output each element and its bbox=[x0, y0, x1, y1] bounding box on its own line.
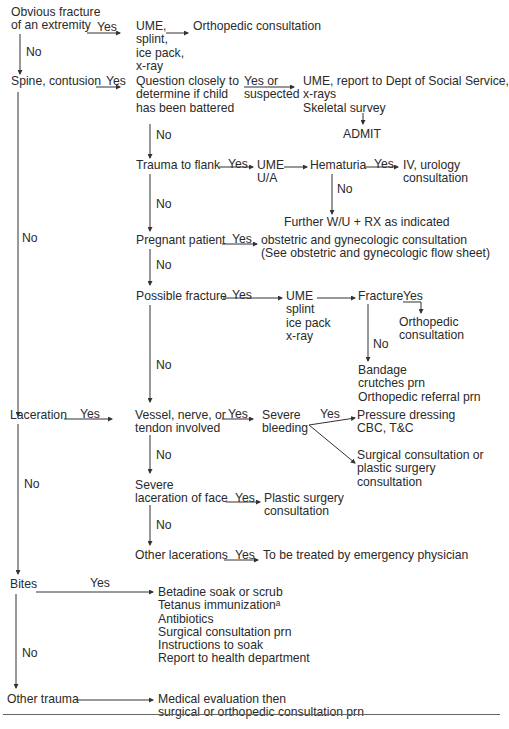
node-medical-evaluation: Medical evaluation then surgical or orth… bbox=[158, 693, 364, 720]
edge-label-yes: Yes bbox=[90, 577, 110, 590]
node-laceration: Laceration bbox=[10, 409, 67, 422]
edge-label-no: No bbox=[24, 478, 40, 491]
edge-label-yes: Yes bbox=[106, 75, 126, 88]
edge-label-yes: Yes bbox=[232, 233, 252, 246]
edge-label-yes: Yes bbox=[374, 158, 394, 171]
node-further-wu: Further W/U + RX as indicated bbox=[284, 216, 450, 229]
node-admit: ADMIT bbox=[343, 128, 381, 141]
node-ume-splint-1: UME, splint, ice pack, x-ray bbox=[136, 20, 184, 73]
node-orthopedic-consultation-2: Orthopedic consultation bbox=[399, 316, 464, 343]
edge-label-yes: Yes bbox=[228, 408, 248, 421]
node-severe-laceration-face: Severe laceration of face bbox=[135, 479, 228, 506]
edge-label-yes: Yes bbox=[97, 21, 117, 34]
node-hematuria: Hematuria bbox=[310, 159, 366, 172]
edge-label-no: No bbox=[22, 232, 38, 245]
edge-label-no: No bbox=[156, 449, 172, 462]
node-other-trauma: Other trauma bbox=[7, 693, 79, 706]
node-trauma-flank: Trauma to flank bbox=[136, 159, 220, 172]
node-bites-treatment: Betadine soak or scrub Tetanus immunizat… bbox=[158, 586, 310, 666]
node-fracture: Fracture bbox=[358, 290, 403, 303]
node-bites: Bites bbox=[10, 578, 37, 591]
edge-label-no: No bbox=[156, 259, 172, 272]
edge-label-no: No bbox=[156, 198, 172, 211]
node-iv-urology: IV, urology consultation bbox=[403, 159, 468, 186]
node-other-lacerations: Other lacerations bbox=[135, 549, 228, 562]
node-spine-contusion: Spine, contusion bbox=[11, 75, 101, 88]
node-pregnant-patient: Pregnant patient bbox=[136, 234, 225, 247]
node-question-battered: Question closely to determine if child h… bbox=[136, 75, 239, 115]
edge-label-yes: Yes bbox=[80, 408, 100, 421]
node-orthopedic-consultation-1: Orthopedic consultation bbox=[193, 20, 321, 33]
edge-label-no: No bbox=[373, 338, 389, 351]
node-plastic-surgery: Plastic surgery consultation bbox=[264, 492, 344, 519]
node-obvious-fracture: Obvious fracture of an extremity bbox=[11, 6, 100, 33]
edge-label-yes: Yes bbox=[235, 492, 255, 505]
node-ume-ua: UME U/A bbox=[257, 159, 284, 186]
node-emergency-physician: To be treated by emergency physician bbox=[263, 549, 468, 562]
node-severe-bleeding: Severe bleeding bbox=[262, 409, 308, 436]
edge-label-no: No bbox=[22, 647, 38, 660]
node-surgical-or-plastic: Surgical consultation or plastic surgery… bbox=[357, 449, 484, 489]
edge-label-no: No bbox=[156, 359, 172, 372]
edge-label-yes: Yes bbox=[403, 290, 423, 303]
node-obstetric-consultation: obstetric and gynecologic consultation (… bbox=[261, 234, 490, 261]
node-bandage: Bandage crutches prn Orthopedic referral… bbox=[358, 364, 481, 404]
edge-label-yes: Yes bbox=[228, 158, 248, 171]
edge-label-yes: Yes bbox=[320, 408, 340, 421]
edge-label-yes: Yes bbox=[235, 549, 255, 562]
bottom-rule bbox=[3, 714, 500, 715]
edge-label-yes-or-suspected: Yes or suspected bbox=[244, 75, 300, 102]
node-pressure-dressing: Pressure dressing CBC, T&C bbox=[357, 409, 455, 436]
node-ume-report-social-service: UME, report to Dept of Social Service, x… bbox=[303, 75, 509, 115]
edge-label-yes: Yes bbox=[232, 289, 252, 302]
node-vessel-nerve-tendon: Vessel, nerve, or tendon involved bbox=[135, 409, 226, 436]
node-possible-fracture: Possible fracture bbox=[136, 290, 227, 303]
node-ume-splint-2: UME splint ice pack x-ray bbox=[286, 290, 331, 343]
edge-label-no: No bbox=[156, 129, 172, 142]
edge-label-no: No bbox=[337, 183, 353, 196]
edge-label-no: No bbox=[156, 519, 172, 532]
edge-label-no: No bbox=[26, 46, 42, 59]
